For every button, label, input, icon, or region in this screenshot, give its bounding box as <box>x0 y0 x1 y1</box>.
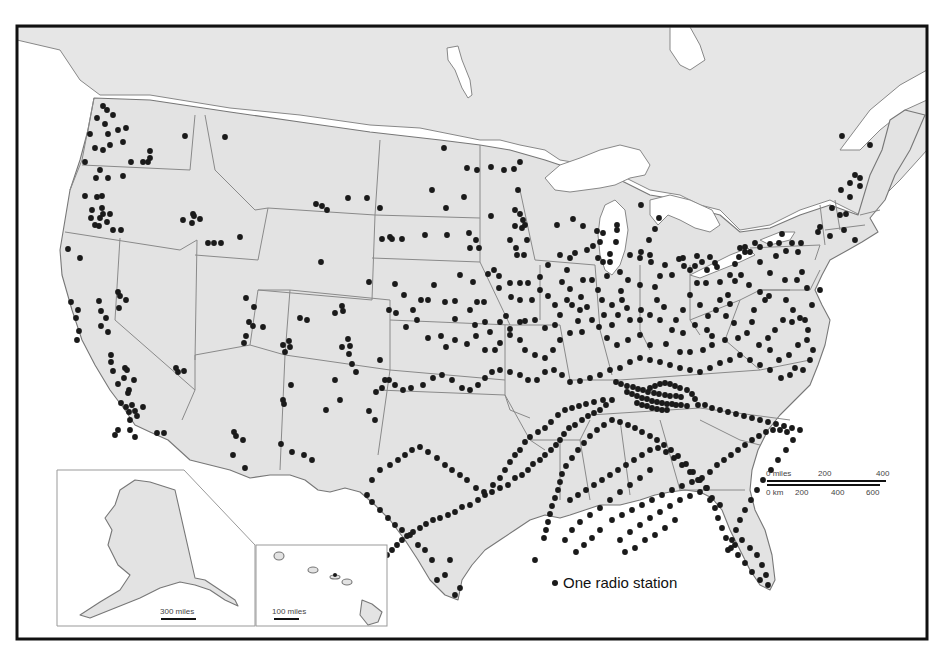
radio-station-dot <box>657 273 663 279</box>
radio-station-dot <box>667 362 673 368</box>
radio-station-dot <box>802 317 808 323</box>
radio-station-dot <box>704 267 710 273</box>
radio-station-dot <box>389 547 395 553</box>
radio-station-dot <box>599 297 605 303</box>
radio-station-dot <box>629 391 635 397</box>
radio-station-dot <box>132 408 138 414</box>
radio-station-dot <box>377 507 383 513</box>
radio-station-dot <box>75 307 81 313</box>
radio-station-dot <box>637 522 643 528</box>
radio-station-dot <box>392 281 398 287</box>
radio-station-dot <box>82 193 88 199</box>
radio-station-dot <box>703 485 709 491</box>
radio-station-dot <box>281 401 287 407</box>
radio-station-dot <box>717 360 723 366</box>
radio-station-dot <box>575 492 581 498</box>
radio-station-dot <box>765 335 771 341</box>
radio-station-dot <box>776 240 782 246</box>
radio-station-dot <box>429 187 435 193</box>
radio-station-dot <box>77 255 83 261</box>
radio-station-dot <box>847 194 853 200</box>
radio-station-dot <box>589 277 595 283</box>
radio-station-dot <box>789 425 795 431</box>
radio-station-dot <box>637 317 643 323</box>
radio-station-dot <box>97 215 103 221</box>
radio-station-dot <box>474 167 480 173</box>
radio-station-dot <box>604 273 610 279</box>
scale-km-600: 600 <box>866 488 880 497</box>
radio-station-dot <box>559 279 565 285</box>
radio-station-dot <box>614 342 620 348</box>
radio-station-dot <box>580 277 586 283</box>
radio-station-dot <box>527 434 533 440</box>
radio-station-dot <box>579 329 585 335</box>
radio-station-dot <box>496 273 502 279</box>
radio-station-dot <box>712 505 718 511</box>
radio-station-dot <box>537 287 543 293</box>
radio-station-dot <box>817 224 823 230</box>
radio-station-dot <box>617 537 623 543</box>
radio-station-dot <box>549 503 555 509</box>
radio-station-dot <box>457 472 463 478</box>
radio-station-dot <box>309 457 315 463</box>
radio-station-dot <box>97 167 103 173</box>
radio-station-dot <box>211 240 217 246</box>
radio-station-dot <box>542 325 548 331</box>
radio-station-dot <box>732 278 738 284</box>
radio-station-dot <box>797 315 803 321</box>
radio-station-dot <box>65 246 71 252</box>
radio-station-dot <box>597 527 603 533</box>
radio-station-dot <box>773 253 779 259</box>
radio-station-dot <box>461 194 467 200</box>
radio-station-dot <box>349 361 355 367</box>
radio-station-dot <box>705 313 711 319</box>
radio-station-dot <box>707 365 713 371</box>
radio-station-dot <box>583 401 589 407</box>
radio-station-dot <box>847 180 853 186</box>
radio-station-dot <box>82 159 88 165</box>
radio-station-dot <box>569 302 575 308</box>
radio-station-dot <box>377 467 383 473</box>
radio-station-dot <box>452 337 458 343</box>
radio-station-dot <box>647 252 653 258</box>
radio-station-dot <box>218 240 224 246</box>
radio-station-dot <box>709 405 715 411</box>
radio-station-dot <box>661 304 667 310</box>
radio-station-dot <box>489 369 495 375</box>
radio-station-dot <box>288 382 294 388</box>
radio-station-dot <box>513 245 519 251</box>
radio-station-dot <box>702 402 708 408</box>
radio-station-dot <box>639 452 645 458</box>
radio-station-dot <box>559 372 565 378</box>
radio-station-dot <box>599 477 605 483</box>
radio-station-dot <box>339 303 345 309</box>
radio-station-dot <box>680 307 686 313</box>
radio-station-dot <box>622 549 628 555</box>
radio-station-dot <box>664 401 670 407</box>
radio-station-dot <box>324 207 330 213</box>
radio-station-dot <box>550 347 556 353</box>
radio-station-dot <box>89 207 95 213</box>
radio-station-dot <box>773 421 779 427</box>
radio-station-dot <box>804 337 810 343</box>
radio-station-dot <box>680 330 686 336</box>
radio-station-dot <box>647 433 653 439</box>
radio-station-dot <box>692 396 698 402</box>
radio-station-dot <box>99 205 105 211</box>
radio-station-dot <box>625 337 631 343</box>
radio-station-dot <box>425 297 431 303</box>
radio-station-dot <box>838 187 844 193</box>
radio-station-dot <box>744 330 750 336</box>
legend-dot-icon <box>552 580 558 586</box>
radio-station-dot <box>607 367 613 373</box>
radio-station-dot <box>420 382 426 388</box>
radio-station-dot <box>467 245 473 251</box>
scale-km-200: 200 <box>795 488 809 497</box>
radio-station-dot <box>767 241 773 247</box>
radio-station-dot <box>430 517 436 523</box>
radio-station-dot <box>790 307 796 313</box>
radio-station-dot <box>475 382 481 388</box>
radio-station-dot <box>638 307 644 313</box>
radio-station-dot <box>644 403 650 409</box>
radio-station-dot <box>534 377 540 383</box>
